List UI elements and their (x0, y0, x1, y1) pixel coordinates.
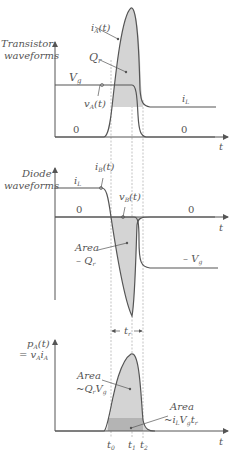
qr-label: Qr (89, 51, 102, 65)
t2-label: t2 (140, 439, 148, 451)
area-label: Area (74, 242, 99, 253)
t-axis-label: t (219, 141, 224, 152)
ib-label: iB(t) (95, 161, 115, 173)
neg-vg-label: – Vg (183, 253, 202, 266)
zero-right-label: 0 (181, 124, 187, 135)
diode-il-label: iL (74, 175, 81, 187)
area2-label: Area (169, 401, 194, 412)
diode-t-axis-label: t (219, 222, 224, 233)
transistor-axis-label-2: waveforms (4, 50, 59, 61)
rise-time-indicator: tr (112, 325, 142, 337)
diode-zero-left: 0 (76, 204, 82, 215)
area2-value: ~iLVgtr (164, 414, 199, 427)
area1-value: ~QrVg (76, 383, 107, 396)
tr-label: tr (124, 325, 132, 337)
vb-label: vB(t) (119, 191, 141, 203)
transistor-panel: Transistor waveforms iA(t) Qr Vg vA(t) i… (1, 8, 228, 152)
pa-axis-label-2: = vAiA (19, 349, 49, 361)
t1-label: t1 (128, 439, 136, 451)
vg-label: Vg (69, 71, 82, 85)
diode-zero-right: 0 (188, 204, 194, 215)
diode-panel: Diode waveforms iB(t) iL vB(t) 0 0 t Are… (4, 161, 228, 316)
il-vg-tr-shaded-area (108, 418, 143, 431)
area-value: – Qr (76, 255, 96, 267)
diode-axis-label-1: Diode (21, 168, 52, 179)
transistor-axis-label-1: Transistor (1, 38, 54, 49)
area1-label: Area (76, 370, 101, 381)
power-panel: pA(t) = vAiA Area ~QrVg Area ~iLVgtr t t… (19, 338, 228, 451)
power-t-axis-label: t (219, 436, 224, 447)
diode-axis-label-2: waveforms (4, 180, 59, 191)
ia-label: iA(t) (91, 22, 110, 34)
switching-waveforms-diagram: Transistor waveforms iA(t) Qr Vg vA(t) i… (0, 0, 240, 459)
zero-left-label: 0 (73, 124, 79, 135)
va-label: vA(t) (84, 98, 106, 110)
t0-label: t0 (107, 439, 115, 451)
il-label: iL (182, 93, 189, 105)
